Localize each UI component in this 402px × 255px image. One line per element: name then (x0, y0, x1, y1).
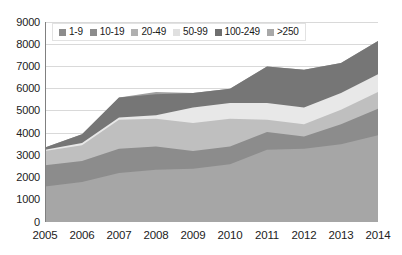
y-tick-label: 4000 (2, 128, 40, 139)
legend-swatch-icon (173, 29, 180, 36)
x-tick-label: 2014 (355, 228, 401, 242)
plot-area (45, 22, 378, 222)
y-tick-label: 6000 (2, 83, 40, 94)
y-axis: 0100020003000400050006000700080009000 (0, 0, 40, 255)
plot-svg (45, 22, 378, 222)
legend-item-10-19[interactable]: 10-19 (90, 27, 125, 37)
legend-label: >250 (277, 27, 299, 37)
y-tick-label: 3000 (2, 150, 40, 161)
legend-item-20-49[interactable]: 20-49 (131, 27, 166, 37)
legend-label: 10-19 (100, 27, 125, 37)
y-tick-label: 5000 (2, 105, 40, 116)
y-tick-label: 9000 (2, 17, 40, 28)
stacked-area-chart: 0100020003000400050006000700080009000 1-… (0, 0, 402, 255)
y-tick-label: 0 (2, 217, 40, 228)
legend-swatch-icon (131, 29, 138, 36)
legend-item-50-99[interactable]: 50-99 (173, 27, 208, 37)
legend-label: 20-49 (141, 27, 166, 37)
y-tick-label: 7000 (2, 61, 40, 72)
area-series-group (45, 41, 378, 222)
legend-swatch-icon (267, 29, 274, 36)
y-tick-label: 1000 (2, 194, 40, 205)
legend-item-100-249[interactable]: 100-249 (215, 27, 260, 37)
legend-swatch-icon (90, 29, 97, 36)
x-axis: 2005200620072008200920102011201220132014 (0, 228, 402, 250)
legend-label: 50-99 (183, 27, 208, 37)
legend-swatch-icon (59, 29, 66, 36)
legend-label: 100-249 (225, 27, 260, 37)
y-tick-label: 2000 (2, 172, 40, 183)
chart-legend: 1-910-1920-4950-99100-249>250 (52, 23, 306, 41)
legend-item-1-9[interactable]: 1-9 (59, 27, 83, 37)
y-tick-label: 8000 (2, 39, 40, 50)
legend-label: 1-9 (69, 27, 83, 37)
legend-item--250[interactable]: >250 (267, 27, 299, 37)
legend-swatch-icon (215, 29, 222, 36)
